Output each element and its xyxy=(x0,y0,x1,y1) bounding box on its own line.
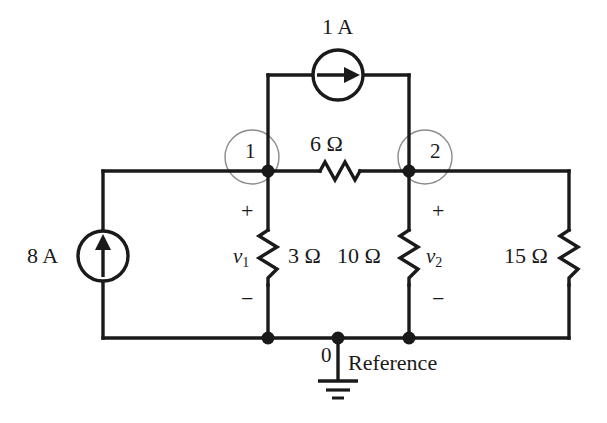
resistor-15ohm-label: 15 Ω xyxy=(504,245,548,267)
reference-label: Reference xyxy=(348,352,437,374)
junction-dot-node-1 xyxy=(262,165,275,178)
junction-dot-ground xyxy=(332,332,345,345)
resistor-10ohm-label: 10 Ω xyxy=(337,245,381,267)
v2-subscript: 2 xyxy=(435,255,442,270)
v1-label: v1 xyxy=(233,246,249,270)
v2-minus-sign: − xyxy=(432,288,444,310)
source-1a-label: 1 A xyxy=(322,16,353,38)
v2-label: v2 xyxy=(426,246,442,270)
v1-subscript: 1 xyxy=(242,255,249,270)
resistor-10ohm-zigzag xyxy=(400,230,418,285)
v1-symbol: v xyxy=(233,244,242,268)
node-2-label: 2 xyxy=(430,141,441,162)
v1-minus-sign: − xyxy=(241,288,253,310)
circuit-schematic-svg xyxy=(0,0,607,423)
v2-symbol: v xyxy=(426,244,435,268)
resistor-15ohm-zigzag xyxy=(560,230,578,285)
junction-dot-bottom-left xyxy=(262,332,275,345)
junction-dot-node-2 xyxy=(403,165,416,178)
node-1-label: 1 xyxy=(245,141,256,162)
resistor-6ohm-label: 6 Ω xyxy=(310,133,343,155)
ground-node-label: 0 xyxy=(321,345,332,366)
resistor-6ohm-zigzag xyxy=(320,162,360,180)
circuit-diagram: 1 A 8 A 1 2 6 Ω 3 Ω 10 Ω 15 Ω + v1 − + v… xyxy=(0,0,607,423)
v2-plus-sign: + xyxy=(432,200,444,222)
current-source-8a-symbol xyxy=(78,231,128,281)
junction-dot-bottom-right xyxy=(403,332,416,345)
resistor-3ohm-label: 3 Ω xyxy=(288,245,321,267)
ground-symbol xyxy=(318,381,358,398)
v1-plus-sign: + xyxy=(241,200,253,222)
resistor-3ohm-zigzag xyxy=(259,230,277,285)
current-source-1a-symbol xyxy=(313,50,363,100)
source-8a-label: 8 A xyxy=(27,245,58,267)
